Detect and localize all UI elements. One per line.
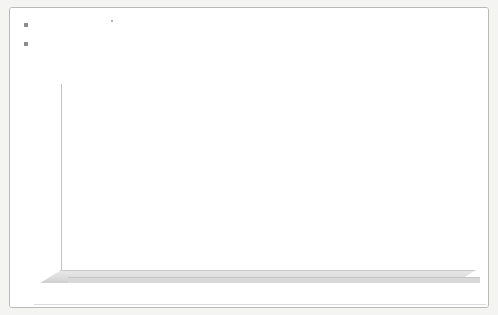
plot-floor-front xyxy=(68,277,480,283)
legend-item-contribution-income xyxy=(24,19,214,27)
chart-card xyxy=(10,8,488,307)
card-baseline-rule xyxy=(34,304,486,305)
bar-series-container xyxy=(67,84,481,277)
legend-swatch-icon xyxy=(24,23,28,27)
chart-legend xyxy=(24,19,214,57)
screenshot-root xyxy=(0,0,498,315)
legend-item-legacy-income xyxy=(24,38,214,46)
chart-paper-frame xyxy=(9,7,489,308)
x-axis-labels xyxy=(67,286,487,300)
legend-swatch-icon xyxy=(24,42,28,46)
y-axis-line xyxy=(61,84,62,277)
plot-area xyxy=(34,80,482,296)
